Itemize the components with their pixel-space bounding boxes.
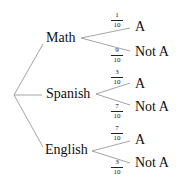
prob-math-a: 1 10 <box>111 12 123 29</box>
edge-root-math <box>14 44 43 95</box>
node-math-a: A <box>135 20 145 34</box>
prob-english-not-a: 3 10 <box>111 159 123 176</box>
node-spanish-not-a: Not A <box>135 100 169 114</box>
node-english: English <box>45 143 88 157</box>
prob-english-a: 7 10 <box>111 125 123 142</box>
node-english-not-a: Not A <box>135 156 169 170</box>
edge-root-english <box>14 95 43 147</box>
prob-spanish-not-a: 7 10 <box>111 103 123 120</box>
node-spanish-a: A <box>135 77 145 91</box>
prob-spanish-a: 3 10 <box>111 69 123 86</box>
node-math-not-a: Not A <box>135 45 169 59</box>
prob-math-not-a: 9 10 <box>111 47 123 64</box>
node-spanish: Spanish <box>46 87 90 101</box>
edge-math-a <box>81 28 130 38</box>
node-english-a: A <box>135 133 145 147</box>
node-math: Math <box>46 31 76 45</box>
edge-english-a <box>92 141 130 151</box>
